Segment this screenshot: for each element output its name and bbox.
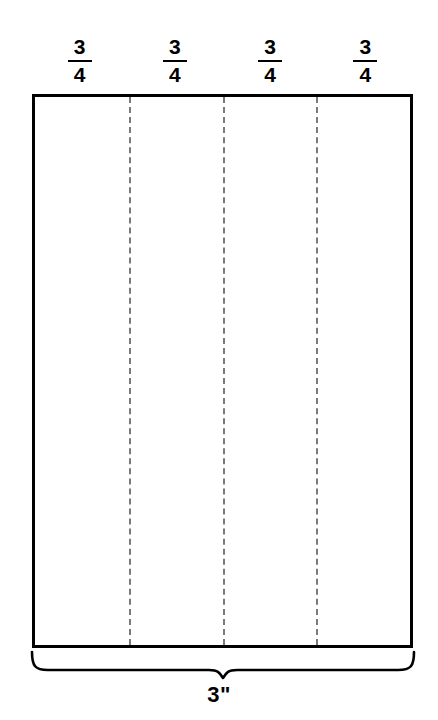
fraction-strip-figure: 3 4 3 4 3 4 3 4 [0,0,438,720]
fraction-denominator: 4 [262,64,278,85]
fraction-denominator: 4 [167,64,183,85]
fraction-3-over-4: 3 4 [163,36,187,85]
strip-label-4: 3 4 [318,36,413,88]
strip-labels-row: 3 4 3 4 3 4 3 4 [32,36,413,88]
fraction-denominator: 4 [358,64,374,85]
fraction-numerator: 3 [358,36,374,57]
total-width-label: 3" [0,682,438,708]
fraction-bar-icon [68,60,92,62]
fraction-3-over-4: 3 4 [68,36,92,85]
dashed-divider-2 [223,97,225,645]
dashed-divider-1 [129,97,131,645]
strip-label-3: 3 4 [223,36,318,88]
dashed-divider-3 [316,97,318,645]
strip-label-1: 3 4 [32,36,127,88]
fraction-denominator: 4 [72,64,88,85]
fraction-numerator: 3 [167,36,183,57]
fraction-bar-icon [163,60,187,62]
fraction-numerator: 3 [262,36,278,57]
fraction-bar-icon [258,60,282,62]
fraction-3-over-4: 3 4 [353,36,377,85]
fraction-3-over-4: 3 4 [258,36,282,85]
fraction-bar-icon [353,60,377,62]
main-rectangle [32,94,413,648]
fraction-numerator: 3 [72,36,88,57]
strip-label-2: 3 4 [127,36,222,88]
